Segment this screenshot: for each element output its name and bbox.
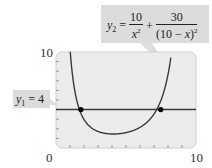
fraction-1: 10 x2	[129, 11, 143, 41]
y-axis-max-label: 10	[40, 45, 53, 61]
x-axis-max-label: 10	[190, 150, 203, 166]
y2-equation-callout: y2 = 10 x2 + 30 (10 − x)2	[101, 5, 209, 43]
fraction-1-denominator: x2	[129, 25, 143, 41]
fraction-2: 30 (10 − x)2	[156, 11, 198, 41]
intersection-point	[78, 107, 83, 112]
y1-value: = 4	[25, 92, 44, 106]
fraction-2-den-exp: 2	[194, 27, 198, 35]
x-axis-min-label: 0	[46, 150, 53, 166]
fraction-2-numerator: 30	[156, 11, 198, 25]
y1-equation-callout: y1 = 4	[13, 90, 50, 108]
plus-sign: +	[146, 19, 156, 33]
fraction-1-numerator: 10	[129, 11, 143, 25]
fraction-2-denominator: (10 − x)2	[156, 25, 198, 41]
intersection-point	[158, 107, 163, 112]
fraction-2-den-pre: (10 −	[156, 27, 185, 41]
fraction-1-den-exp: 2	[137, 27, 141, 35]
y2-equals: =	[116, 18, 129, 32]
